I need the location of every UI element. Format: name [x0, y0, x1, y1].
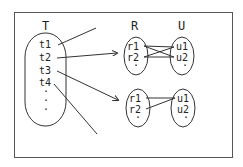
- set-label-r: R: [131, 19, 139, 33]
- relation-1-u-ellipsis: ·: [182, 60, 188, 71]
- diagram-canvas: T t1 t2 t3 t4 · · · R U r1 r2 · u1 u2 · …: [0, 0, 243, 167]
- set-label-u: U: [178, 19, 185, 33]
- relation-2-u-ellipsis: ·: [183, 112, 189, 123]
- set-label-t: T: [42, 19, 49, 33]
- mapping-t1-line: [58, 28, 96, 45]
- relation-1-r-ellipsis: ·: [133, 60, 139, 71]
- relation-2-r1: r1: [129, 93, 141, 104]
- relation-1: r1 r2 · u1 u2 ·: [124, 37, 194, 75]
- relation-2-r-ellipsis: ·: [135, 112, 141, 123]
- edge-r1-u1: [144, 46, 174, 47]
- relation-2: r1 r2 · u1 u2 ·: [126, 89, 195, 127]
- mapping-t4-line: [54, 84, 97, 134]
- relation-2-u1: u1: [177, 93, 189, 104]
- relation-1-r1: r1: [127, 41, 139, 52]
- t-item-1: t1: [39, 39, 51, 50]
- t-item-2: t2: [39, 52, 51, 63]
- t-ellipsis-3: ·: [43, 104, 49, 115]
- t-item-3: t3: [39, 65, 51, 76]
- relation-1-u1: u1: [176, 41, 188, 52]
